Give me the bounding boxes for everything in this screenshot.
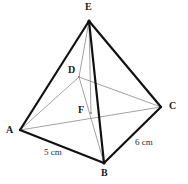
pyramid-figure <box>0 0 188 184</box>
measurement-label-ab: 5 cm <box>44 148 62 157</box>
vertex-label-e: E <box>85 2 92 12</box>
edge-A-B <box>20 130 104 163</box>
vertex-dot-d <box>78 76 80 78</box>
edge-E-B <box>89 21 104 163</box>
vertex-dot-b <box>102 161 105 164</box>
vertex-label-b: B <box>101 168 108 178</box>
vertex-label-c: C <box>169 101 176 111</box>
vertex-label-a: A <box>6 125 13 135</box>
vertex-dot-e <box>87 19 90 22</box>
measurement-label-bc: 6 cm <box>135 138 153 147</box>
vertex-label-d: D <box>68 65 75 75</box>
vertex-dot-f <box>90 112 92 114</box>
edge-B-C <box>104 107 161 163</box>
vertex-label-f: F <box>78 105 84 115</box>
geometry-diagram: E D A C B F 5 cm 6 cm <box>0 0 188 184</box>
